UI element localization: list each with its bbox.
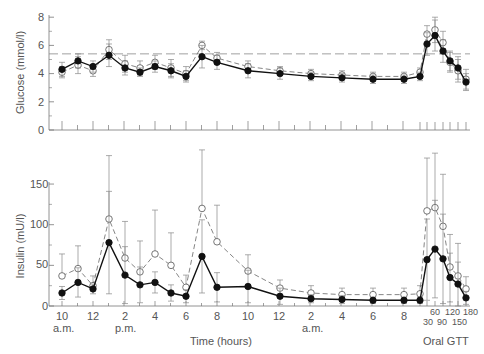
filled-circle-marker [463, 79, 469, 85]
filled-circle-marker [137, 69, 143, 75]
filled-circle-marker [417, 73, 423, 79]
filled-circle-marker [75, 279, 81, 285]
x-sublabel-am: a.m. [53, 322, 74, 334]
filled-circle-marker [463, 295, 469, 301]
filled-circle-marker [106, 239, 112, 245]
filled-circle-marker [59, 66, 65, 72]
filled-circle-marker [214, 284, 220, 290]
chart-canvas [0, 0, 484, 354]
filled-circle-marker [122, 272, 128, 278]
insulin-tick-50: 50 [36, 258, 48, 270]
x-tick-10am: 10 [56, 310, 68, 322]
filled-circle-marker [455, 65, 461, 71]
filled-circle-marker [417, 297, 423, 303]
x-tick-12am: 12 [273, 310, 285, 322]
filled-circle-marker [90, 286, 96, 292]
open-circle-marker [424, 208, 431, 215]
x-sublabel-pm: p.m. [115, 322, 136, 334]
filled-circle-marker [370, 76, 376, 82]
x-tick-8am: 8 [401, 310, 407, 322]
filled-circle-marker [168, 68, 174, 74]
x-tick-6am: 6 [370, 310, 376, 322]
filled-circle-marker [424, 256, 430, 262]
x-tick-4am: 4 [339, 310, 345, 322]
filled-circle-marker [137, 282, 143, 288]
x-tick-8: 8 [214, 310, 220, 322]
insulin-tick-150: 150 [30, 178, 48, 190]
filled-circle-marker [432, 246, 438, 252]
filled-circle-marker [199, 253, 205, 259]
filled-circle-marker [152, 63, 158, 69]
x-tick-6: 6 [183, 310, 189, 322]
x-tick-2am: 2 [308, 310, 314, 322]
gtt-tick-60: 60 [430, 307, 440, 317]
glucose-tick-2: 2 [38, 96, 44, 108]
x-axis-label: Time (hours) [190, 335, 252, 347]
open-circle-marker [214, 238, 221, 245]
x-tick-2pm: 2 [122, 310, 128, 322]
filled-circle-marker [401, 297, 407, 303]
filled-circle-marker [106, 52, 112, 58]
filled-circle-marker [447, 58, 453, 64]
filled-circle-marker [432, 32, 438, 38]
filled-circle-marker [370, 297, 376, 303]
filled-circle-marker [245, 68, 251, 74]
glucose-tick-6: 6 [38, 39, 44, 51]
insulin-tick-100: 100 [30, 218, 48, 230]
gtt-tick-90: 90 [437, 317, 447, 327]
filled-circle-marker [59, 290, 65, 296]
filled-circle-marker [183, 293, 189, 299]
filled-circle-marker [75, 58, 81, 64]
filled-circle-marker [122, 65, 128, 71]
filled-circle-marker [440, 256, 446, 262]
gtt-tick-180: 180 [463, 307, 478, 317]
filled-circle-marker [214, 59, 220, 65]
glucose-tick-4: 4 [38, 67, 44, 79]
open-circle-marker [59, 273, 66, 280]
filled-circle-marker [245, 283, 251, 289]
insulin-axis-label: Insulin (mU/l) [14, 204, 26, 288]
filled-circle-marker [447, 274, 453, 280]
open-circle-marker [168, 262, 175, 269]
filled-circle-marker [339, 75, 345, 81]
filled-circle-marker [440, 48, 446, 54]
glucose-axis-label: Glucose (mmol/l) [14, 34, 26, 114]
filled-circle-marker [277, 70, 283, 76]
open-circle-marker [417, 291, 424, 298]
open-circle-marker [152, 251, 159, 258]
filled-circle-marker [90, 63, 96, 69]
filled-circle-marker [401, 76, 407, 82]
filled-circle-marker [152, 279, 158, 285]
gtt-axis-label: Oral GTT [423, 335, 469, 347]
filled-circle-marker [308, 73, 314, 79]
filled-circle-marker [183, 73, 189, 79]
x-tick-12: 12 [87, 310, 99, 322]
insulin-tick-0: 0 [42, 300, 48, 312]
gtt-tick-120: 120 [445, 307, 460, 317]
filled-circle-marker [277, 293, 283, 299]
gtt-tick-30: 30 [423, 317, 433, 327]
gtt-tick-150: 150 [452, 317, 467, 327]
filled-circle-marker [455, 281, 461, 287]
filled-circle-marker [199, 53, 205, 59]
filled-circle-marker [168, 290, 174, 296]
filled-circle-marker [424, 41, 430, 47]
glucose-tick-8: 8 [38, 11, 44, 23]
filled-circle-marker [308, 295, 314, 301]
open-series-line [62, 208, 466, 295]
x-tick-4: 4 [152, 310, 158, 322]
x-sublabel-am2: a.m. [302, 322, 323, 334]
open-circle-marker [199, 205, 206, 212]
x-tick-10pm: 10 [242, 310, 254, 322]
filled-circle-marker [339, 296, 345, 302]
glucose-tick-0: 0 [38, 124, 44, 136]
